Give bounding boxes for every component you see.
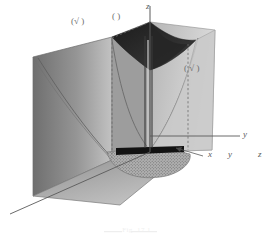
legend-label-x: x	[208, 150, 212, 159]
figure-caption: Fig. 17.1	[0, 226, 273, 234]
surface-diagram	[0, 0, 273, 236]
point-label-left: (√ )	[71, 17, 84, 26]
axis-label-y: y	[243, 130, 247, 139]
legend-label-y: y	[228, 150, 232, 159]
point-label-right: ( √ )	[184, 64, 199, 73]
figure-container: z y x y z (√ ) ( ) ( √ ) Fig. 17.1	[0, 0, 273, 236]
axis-label-z: z	[146, 2, 150, 11]
point-label-top: ( )	[112, 12, 120, 21]
legend-label-z: z	[258, 150, 262, 159]
